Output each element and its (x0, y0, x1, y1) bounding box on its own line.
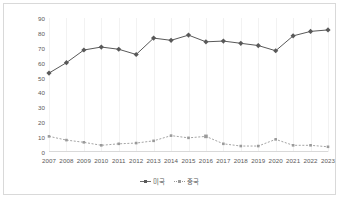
y-axis-tick-label: 50 (38, 74, 45, 81)
data-point-marker (204, 135, 208, 139)
series-2 (48, 134, 330, 148)
x-axis-tick-label: 2016 (199, 157, 213, 164)
x-axis-tick-label: 2010 (94, 157, 108, 164)
x-axis-tick-label: 2009 (77, 157, 91, 164)
legend-item-1[interactable]: 미국 (140, 177, 165, 186)
data-point-marker (222, 143, 225, 146)
legend-label: 중국 (187, 177, 199, 186)
data-point-marker (325, 27, 330, 32)
data-point-marker (168, 38, 173, 43)
data-point-marker (187, 137, 190, 140)
gridline-vertical (328, 18, 329, 152)
data-point-marker (256, 43, 261, 48)
data-point-marker (292, 144, 295, 147)
y-axis-tick-label: 30 (38, 104, 45, 111)
data-point-marker (308, 29, 313, 34)
x-axis-tick-label: 2015 (181, 157, 195, 164)
chart-legend: 미국중국 (4, 177, 335, 186)
data-point-marker (221, 38, 226, 43)
data-point-marker (152, 140, 155, 143)
x-axis-tick-label: 2014 (164, 157, 178, 164)
x-axis-tick-label: 2022 (303, 157, 317, 164)
data-point-marker (203, 39, 208, 44)
y-axis-tick-label: 60 (38, 59, 45, 66)
plot-area: 0102030405060708090 20072008200920102011… (49, 18, 328, 152)
y-axis-tick-label: 70 (38, 44, 45, 51)
legend-item-2[interactable]: 중국 (174, 177, 199, 186)
data-point-marker (257, 145, 260, 148)
data-point-marker (117, 143, 120, 146)
legend-marker-icon (174, 179, 185, 184)
data-point-marker (309, 144, 312, 147)
y-axis-tick-label: 80 (38, 29, 45, 36)
y-axis-tick-label: 90 (38, 15, 45, 22)
data-point-marker (327, 145, 330, 148)
data-point-marker (99, 44, 104, 49)
data-point-marker (186, 33, 191, 38)
x-axis-tick-label: 2019 (251, 157, 265, 164)
y-axis-tick-label: 20 (38, 119, 45, 126)
chart-frame: 0102030405060708090 20072008200920102011… (3, 3, 336, 195)
x-axis-tick-label: 2011 (112, 157, 126, 164)
legend-point (178, 180, 181, 183)
data-point-marker (46, 70, 51, 75)
series-1 (46, 27, 330, 75)
data-point-marker (274, 138, 277, 141)
y-axis-tick-label: 10 (38, 134, 45, 141)
data-point-marker (48, 135, 51, 138)
legend-label: 미국 (153, 177, 165, 186)
legend-marker-icon (140, 179, 151, 184)
x-axis-tick-label: 2012 (129, 157, 143, 164)
x-axis-tick-label: 2008 (59, 157, 73, 164)
x-axis-tick-label: 2021 (286, 157, 300, 164)
data-point-marker (135, 142, 138, 145)
data-point-marker (238, 41, 243, 46)
y-axis-tick-label: 0 (41, 149, 45, 156)
legend-point (144, 180, 147, 183)
data-point-marker (116, 47, 121, 52)
x-axis-tick-label: 2017 (216, 157, 230, 164)
series-plot (49, 18, 328, 152)
data-point-marker (83, 141, 86, 144)
data-point-marker (170, 134, 173, 137)
x-axis-tick-label: 2020 (269, 157, 283, 164)
x-axis-tick-label: 2023 (321, 157, 335, 164)
data-point-marker (240, 145, 243, 148)
x-axis-tick-label: 2013 (147, 157, 161, 164)
x-axis-tick-label: 2007 (42, 157, 56, 164)
y-axis-tick-label: 40 (38, 89, 45, 96)
data-point-marker (100, 144, 103, 147)
data-point-marker (65, 139, 68, 142)
x-axis-tick-label: 2018 (234, 157, 248, 164)
